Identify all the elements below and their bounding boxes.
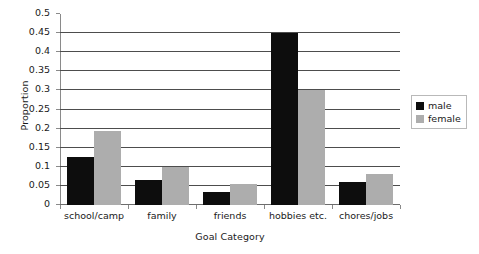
x-axis-tick-label: family [128,210,196,221]
bar-group [128,14,196,205]
y-axis-tick-label: 0.05 [29,180,50,190]
bar-male [271,33,298,205]
legend-item: female [416,112,461,125]
x-axis-tick [128,205,129,209]
bar-female [366,174,393,205]
y-axis-tick-label: 0.1 [35,161,50,171]
x-axis-tick-label: school/camp [60,210,128,221]
y-axis-tick-label: 0 [44,199,50,209]
plot-area: 00.050.10.150.20.250.30.350.40.450.5 [60,14,400,205]
x-axis-title: Goal Category [60,231,400,242]
x-axis-tick [196,205,197,209]
bar-female [230,184,257,205]
bar-female [94,131,121,205]
y-axis-tick-label: 0.5 [35,8,50,18]
y-axis-title: Proportion [19,51,30,161]
bar-male [135,180,162,205]
y-axis-tick-label: 0.45 [29,27,50,37]
x-axis-tick [60,205,61,209]
legend-label: female [428,114,461,124]
bar-male [67,157,94,206]
bar-group [332,14,400,205]
y-axis-tick-label: 0.4 [35,46,50,56]
x-axis-tick [332,205,333,209]
y-axis-tick-label: 0.15 [29,142,50,152]
bar-group [264,14,332,205]
bar-group [60,14,128,205]
bar-male [203,192,230,205]
legend-swatch-female [416,115,424,123]
x-axis-tick-label: friends [196,210,264,221]
bar-group [196,14,264,205]
legend-item: male [416,99,461,112]
legend: malefemale [411,95,467,129]
legend-swatch-male [416,102,424,110]
y-axis-tick-label: 0.3 [35,85,50,95]
legend-label: male [428,101,452,111]
x-axis-tick [264,205,265,209]
bar-female [162,167,189,205]
y-axis-tick-label: 0.2 [35,123,50,133]
x-axis-tick-label: chores/jobs [332,210,400,221]
x-axis-tick-label: hobbies etc. [264,210,332,221]
x-axis-tick [400,205,401,209]
bar-chart: Proportion 00.050.10.150.20.250.30.350.4… [0,0,479,254]
y-axis-tick-label: 0.25 [29,104,50,114]
bar-female [298,90,325,205]
y-axis-tick-label: 0.35 [29,66,50,76]
bar-male [339,182,366,205]
